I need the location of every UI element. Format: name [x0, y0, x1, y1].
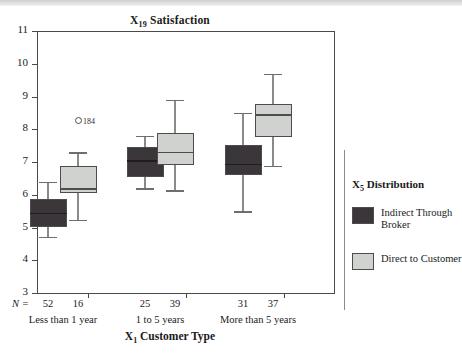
- plot-frame-top: [37, 31, 335, 32]
- x-axis-title-var: X: [125, 330, 133, 342]
- y-axis-tick: [32, 293, 37, 294]
- whisker-cap-lower: [136, 188, 154, 190]
- chart-title-var: X: [130, 14, 139, 26]
- y-axis-tick: [32, 129, 37, 130]
- whisker-cap-upper: [264, 74, 282, 76]
- legend-divider: [344, 150, 345, 310]
- y-axis-tick: [32, 31, 37, 32]
- n-value: 37: [253, 298, 293, 309]
- y-axis-tick-label: 6: [6, 187, 28, 199]
- whisker-cap-lower: [166, 190, 184, 192]
- legend-title-var: X: [352, 178, 360, 190]
- y-axis-tick: [32, 260, 37, 261]
- outlier-point: [75, 117, 82, 124]
- legend-item-direct-to-customer: Direct to Customer: [352, 253, 462, 270]
- whisker-cap-upper: [39, 182, 57, 184]
- x-axis-title-rest: Customer Type: [137, 330, 215, 342]
- whisker-upper: [47, 182, 49, 199]
- chart-title-subscript: 19: [139, 20, 147, 29]
- n-value: 39: [155, 298, 195, 309]
- legend: X5 Distribution Indirect Through Broker …: [352, 178, 462, 292]
- whisker-cap-lower: [234, 211, 252, 213]
- whisker-lower: [174, 165, 176, 190]
- legend-title: X5 Distribution: [352, 178, 462, 193]
- y-axis-tick: [32, 64, 37, 65]
- box: [157, 133, 194, 166]
- legend-item-indirect-through-broker: Indirect Through Broker: [352, 207, 462, 231]
- boxplot-figure: X19 Satisfaction 11109876543 184 N = 521…: [0, 0, 462, 353]
- y-axis-tick-label: 5: [6, 220, 28, 232]
- legend-label-indirect: Indirect Through Broker: [381, 207, 462, 231]
- outlier-label: 184: [83, 117, 95, 126]
- y-axis-tick-label: 9: [6, 89, 28, 101]
- plot-frame-right: [334, 31, 335, 293]
- whisker-cap-lower: [264, 166, 282, 168]
- legend-swatch-direct: [352, 253, 374, 270]
- n-row-prefix: N =: [12, 298, 29, 309]
- legend-swatch-indirect: [352, 207, 374, 224]
- category-label: 1 to 5 years: [105, 314, 215, 325]
- whisker-upper: [144, 136, 146, 147]
- legend-label-direct: Direct to Customer: [381, 253, 461, 265]
- median-line: [225, 164, 262, 166]
- y-axis-line: [37, 31, 38, 293]
- whisker-cap-upper: [136, 136, 154, 138]
- whisker-cap-upper: [69, 152, 87, 154]
- n-value: 16: [58, 298, 98, 309]
- y-axis-tick: [32, 162, 37, 163]
- y-axis-tick: [32, 228, 37, 229]
- whisker-lower: [272, 137, 274, 165]
- whisker-lower: [144, 177, 146, 188]
- y-axis-tick-label: 4: [6, 252, 28, 264]
- box: [225, 145, 262, 175]
- median-line: [30, 213, 67, 215]
- y-axis-tick-label: 7: [6, 154, 28, 166]
- whisker-upper: [242, 113, 244, 145]
- median-line: [60, 188, 97, 190]
- category-label: Less than 1 year: [8, 314, 118, 325]
- y-axis-tick: [32, 195, 37, 196]
- whisker-upper: [77, 152, 79, 166]
- median-line: [157, 152, 194, 154]
- y-axis-tick: [32, 97, 37, 98]
- chart-title-rest: Satisfaction: [147, 14, 210, 26]
- whisker-lower: [242, 175, 244, 211]
- whisker-upper: [272, 74, 274, 105]
- legend-title-rest: Distribution: [364, 178, 424, 190]
- median-line: [255, 114, 292, 116]
- y-axis-tick-label: 11: [6, 23, 28, 35]
- whisker-cap-lower: [69, 220, 87, 222]
- whisker-lower: [47, 227, 49, 237]
- category-label: More than 5 years: [203, 314, 313, 325]
- window-top-band: [0, 0, 462, 6]
- whisker-cap-upper: [166, 100, 184, 102]
- chart-title: X19 Satisfaction: [0, 14, 340, 29]
- y-axis-tick-label: 8: [6, 121, 28, 133]
- whisker-cap-lower: [39, 237, 57, 239]
- x-axis-title: X1 Customer Type: [0, 330, 340, 345]
- y-axis-tick-label: 10: [6, 56, 28, 68]
- whisker-cap-upper: [234, 113, 252, 115]
- whisker-lower: [77, 193, 79, 220]
- whisker-upper: [174, 100, 176, 133]
- box: [255, 104, 292, 137]
- y-axis-tick-label: 3: [6, 285, 28, 297]
